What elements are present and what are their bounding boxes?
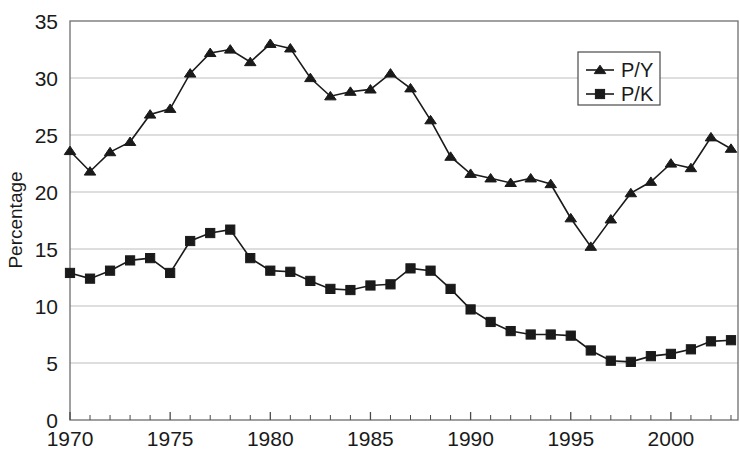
data-point-marker-square: [206, 228, 215, 237]
x-axis-tick-label: 1980: [247, 427, 294, 450]
data-point-marker-square: [125, 256, 134, 265]
data-point-marker-square: [506, 326, 515, 335]
x-axis-tick-label: 1995: [547, 427, 594, 450]
data-point-marker-square: [466, 305, 475, 314]
data-point-marker-square: [146, 254, 155, 263]
chart-container: 05101520253035 1970197519801985199019952…: [0, 0, 740, 450]
legend-label: P/Y: [621, 59, 653, 81]
y-axis-title: Percentage: [5, 171, 26, 268]
x-axis-tick-labels: 1970197519801985199019952000: [47, 427, 695, 450]
data-point-marker-square: [586, 346, 595, 355]
data-point-marker-square: [446, 284, 455, 293]
legend-label: P/K: [621, 83, 654, 105]
data-point-marker-square: [226, 225, 235, 234]
data-point-marker-square: [266, 266, 275, 275]
y-axis-tick-label: 5: [46, 352, 58, 375]
data-point-marker-square: [326, 284, 335, 293]
data-point-marker-square: [526, 330, 535, 339]
x-axis-tick-label: 1975: [147, 427, 194, 450]
x-axis-tick-label: 1970: [47, 427, 94, 450]
chart-legend: P/YP/K: [578, 52, 660, 105]
data-point-marker-square: [666, 349, 675, 358]
data-point-marker-square: [85, 274, 94, 283]
data-point-marker-square: [566, 331, 575, 340]
y-axis-tick-label: 25: [35, 124, 58, 147]
data-point-marker-square: [706, 337, 715, 346]
data-point-marker-square: [166, 268, 175, 277]
y-axis-tick-label: 15: [35, 238, 58, 261]
data-point-marker-square: [406, 264, 415, 273]
line-chart: 05101520253035 1970197519801985199019952…: [0, 0, 740, 450]
data-point-marker-square: [686, 345, 695, 354]
data-point-marker-square: [286, 267, 295, 276]
x-axis-tick-label: 1985: [347, 427, 394, 450]
data-point-marker-square: [65, 268, 74, 277]
data-point-marker-square: [646, 352, 655, 361]
y-axis-tick-label: 35: [35, 10, 58, 33]
data-point-marker-square: [246, 254, 255, 263]
data-point-marker-square: [346, 285, 355, 294]
x-axis-tick-label: 1990: [447, 427, 494, 450]
data-point-marker-square: [426, 266, 435, 275]
y-axis-tick-label: 10: [35, 295, 58, 318]
data-point-marker-square: [386, 280, 395, 289]
data-point-marker-square: [626, 357, 635, 366]
x-axis-tick-label: 2000: [648, 427, 695, 450]
y-axis-tick-label: 30: [35, 67, 58, 90]
data-point-marker-square: [186, 236, 195, 245]
data-point-marker-square: [105, 266, 114, 275]
data-point-marker-square: [606, 356, 615, 365]
data-point-marker-square: [486, 317, 495, 326]
data-point-marker-square: [726, 336, 735, 345]
data-point-marker-square: [595, 89, 604, 98]
y-axis-tick-labels: 05101520253035: [35, 10, 58, 432]
data-point-marker-square: [306, 276, 315, 285]
data-point-marker-square: [546, 330, 555, 339]
y-axis-tick-label: 20: [35, 181, 58, 204]
data-point-marker-square: [366, 281, 375, 290]
